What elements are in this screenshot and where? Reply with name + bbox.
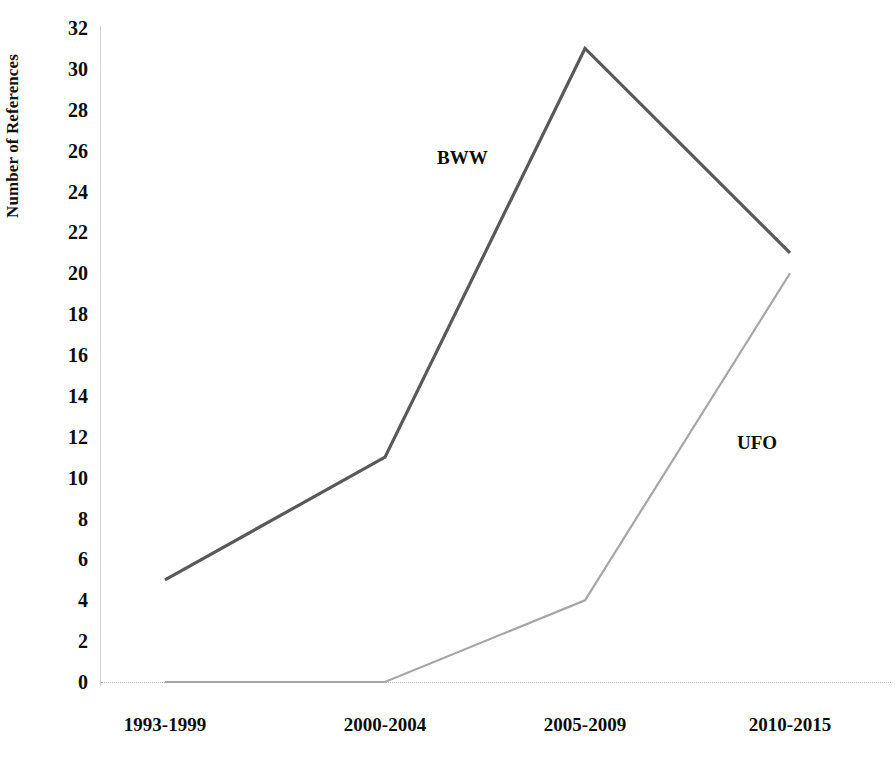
line-chart: Number of References 0246810121416182022… bbox=[0, 0, 895, 771]
x-axis-tick-labels: 1993-19992000-20042005-20092010-2015 bbox=[0, 714, 895, 748]
series-line-ufo bbox=[165, 273, 790, 682]
x-tick-label: 2005-2009 bbox=[544, 714, 626, 737]
x-tick-label: 1993-1999 bbox=[124, 714, 206, 737]
series-label-bww: BWW bbox=[437, 148, 488, 167]
series-plot-layer bbox=[0, 0, 895, 771]
x-tick-label: 2000-2004 bbox=[344, 714, 426, 737]
x-tick-label: 2010-2015 bbox=[749, 714, 831, 737]
series-label-ufo: UFO bbox=[737, 433, 777, 452]
series-line-bww bbox=[165, 48, 790, 579]
